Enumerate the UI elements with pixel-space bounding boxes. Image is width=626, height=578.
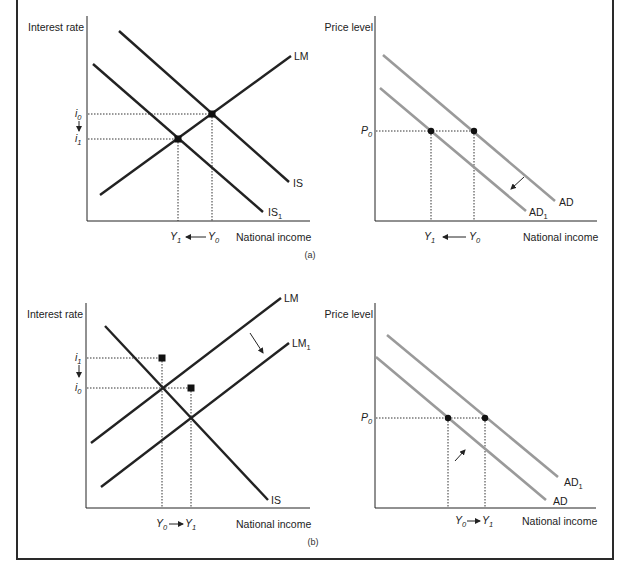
is-label: IS bbox=[271, 494, 281, 506]
panel-b-caption: (b) bbox=[308, 537, 319, 547]
lm1-label: LM1 bbox=[292, 337, 311, 352]
equilibrium-point-0 bbox=[445, 415, 451, 421]
x-axis-label: National income bbox=[236, 518, 311, 530]
y1-tick-label: Y1 bbox=[482, 514, 493, 529]
is-lm-ad-diagram: Interest rate National income LM IS IS1 … bbox=[0, 0, 626, 578]
lm-label: LM bbox=[294, 50, 309, 62]
is1-label: IS1 bbox=[268, 206, 282, 221]
p0-tick-label: P0 bbox=[361, 124, 373, 139]
p0-tick-label: P0 bbox=[361, 411, 373, 426]
y-axis-label: Price level bbox=[325, 21, 373, 33]
equilibrium-point-0 bbox=[209, 111, 216, 118]
panel-b-islm-chart: Interest rate National income LM LM1 IS … bbox=[27, 292, 311, 532]
i0-tick-label: i0 bbox=[75, 381, 82, 396]
equilibrium-point-1 bbox=[175, 136, 182, 143]
equilibrium-point-1 bbox=[428, 128, 434, 134]
i0-tick-label: i0 bbox=[75, 107, 82, 122]
shift-arrow-icon bbox=[511, 177, 524, 189]
shift-arrow-icon bbox=[250, 333, 263, 353]
equilibrium-point-0 bbox=[471, 128, 477, 134]
ad-curve bbox=[376, 357, 546, 500]
y0-tick-label: Y0 bbox=[208, 230, 220, 245]
y0-tick-label: Y0 bbox=[156, 517, 168, 532]
panel-a-ad-chart: Price level National income AD AD1 P0 Y1… bbox=[325, 16, 599, 245]
i1-tick-label: i1 bbox=[75, 351, 82, 366]
i1-tick-label: i1 bbox=[75, 132, 82, 147]
x-axis-label: National income bbox=[523, 231, 598, 243]
panel-a-caption: (a) bbox=[305, 250, 316, 260]
shift-arrow-icon bbox=[455, 450, 465, 461]
panel-a-islm-chart: Interest rate National income LM IS IS1 … bbox=[28, 16, 311, 245]
ad-curve bbox=[383, 55, 555, 201]
equilibrium-point-1 bbox=[482, 415, 488, 421]
guide-lines bbox=[376, 418, 485, 508]
ad1-label: AD1 bbox=[564, 476, 583, 491]
is-label: IS bbox=[293, 177, 303, 189]
x-axis-label: National income bbox=[522, 515, 597, 527]
panel-b-ad-chart: Price level National income AD1 AD P0 Y0… bbox=[325, 303, 598, 529]
y-axis-label: Interest rate bbox=[27, 308, 83, 320]
equilibrium-point-0 bbox=[159, 355, 166, 362]
equilibrium-point-1 bbox=[188, 385, 195, 392]
y-axis-label: Interest rate bbox=[28, 21, 84, 33]
ad1-curve bbox=[380, 88, 526, 211]
guide-lines bbox=[376, 131, 474, 221]
ad-label: AD bbox=[553, 495, 568, 507]
y-axis-label: Price level bbox=[325, 308, 373, 320]
lm-label: LM bbox=[284, 292, 299, 304]
y1-tick-label: Y1 bbox=[185, 517, 196, 532]
y0-tick-label: Y0 bbox=[455, 514, 467, 529]
y0-tick-label: Y0 bbox=[469, 230, 481, 245]
x-axis-label: National income bbox=[236, 231, 311, 243]
y1-tick-label: Y1 bbox=[424, 230, 435, 245]
ad1-label: AD1 bbox=[529, 206, 548, 221]
guide-lines bbox=[88, 114, 212, 221]
ad-label: AD bbox=[559, 196, 574, 208]
ad1-curve bbox=[387, 335, 558, 477]
lm-curve bbox=[100, 56, 291, 195]
y1-tick-label: Y1 bbox=[170, 230, 181, 245]
